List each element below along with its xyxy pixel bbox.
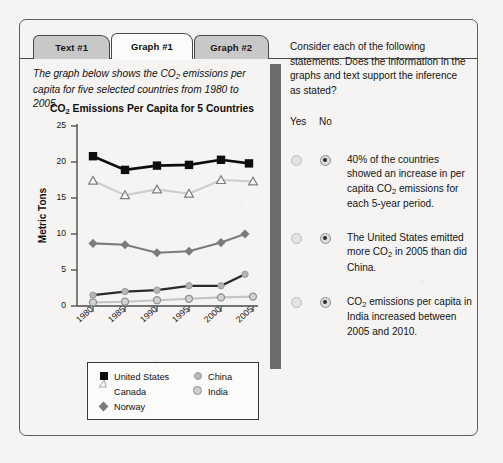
- statement-1-text: 40% of the countries showed an increase …: [347, 153, 472, 212]
- statement-3-subscript: 2: [362, 300, 366, 309]
- chart-title-part2: Emissions Per Capita for 5 Countries: [70, 103, 254, 114]
- legend-label-united-states: United States: [114, 372, 169, 382]
- question-panel: Consider each of the following statement…: [290, 40, 472, 370]
- y-tick-5: 5: [48, 264, 66, 274]
- legend-column-right: China India: [191, 369, 259, 399]
- legend-label-canada: Canada: [114, 387, 146, 397]
- legend-item-canada: Canada: [97, 384, 189, 399]
- radio-no-statement-3[interactable]: [320, 297, 331, 308]
- y-tick-15: 15: [48, 192, 66, 202]
- no-column-label: No: [319, 116, 332, 127]
- radio-no-statement-1[interactable]: [320, 155, 331, 166]
- statement-3-part1: CO: [347, 296, 362, 307]
- line-chart: Metric Tons: [30, 118, 268, 353]
- legend-label-china: China: [208, 372, 232, 382]
- y-tick-20: 20: [48, 156, 66, 166]
- radio-yes-statement-3[interactable]: [291, 297, 302, 308]
- y-tick-0: 0: [48, 300, 66, 310]
- intro-text-part1: The graph below shows the CO: [33, 68, 176, 79]
- question-prompt: Consider each of the following statement…: [290, 40, 466, 98]
- y-tick-10: 10: [48, 228, 66, 238]
- radio-no-statement-2[interactable]: [320, 233, 331, 244]
- statement-2-text: The United States emitted more CO2 in 20…: [347, 231, 472, 275]
- tab-graph-2[interactable]: Graph #2: [194, 35, 269, 59]
- chart-title-subscript: 2: [65, 107, 69, 116]
- statement-3-text: CO2 emissions per capita in India increa…: [347, 295, 472, 339]
- tab-graph-2-label: Graph #2: [210, 42, 252, 53]
- chart-title-part1: CO: [50, 103, 65, 114]
- legend-label-india: India: [208, 387, 228, 397]
- legend-item-china: China: [191, 369, 259, 384]
- circle-ring-icon: [191, 386, 204, 397]
- open-triangle-icon: [97, 387, 110, 397]
- tab-graph-1[interactable]: Graph #1: [111, 33, 192, 59]
- legend-item-united-states: United States: [97, 369, 189, 384]
- legend-item-norway: Norway: [97, 399, 189, 414]
- tab-bar: Text #1 Graph #1 Graph #2: [33, 33, 269, 59]
- panel-scrollbar[interactable]: [270, 64, 281, 369]
- chart-title: CO2 Emissions Per Capita for 5 Countries: [38, 103, 266, 114]
- statement-2-subscript: 2: [388, 250, 392, 259]
- radio-yes-statement-2[interactable]: [291, 233, 302, 244]
- intro-subscript: 2: [176, 72, 180, 81]
- legend-column-left: United States Canada Norway: [97, 369, 189, 414]
- tab-text-1[interactable]: Text #1: [33, 35, 110, 59]
- graph-panel: The graph below shows the CO2 emissions …: [30, 64, 268, 427]
- statement-1-subscript: 2: [392, 187, 396, 196]
- legend-item-india: India: [191, 384, 259, 399]
- diamond-icon: [97, 402, 110, 412]
- y-tick-25: 25: [48, 120, 66, 130]
- yes-column-label: Yes: [290, 116, 306, 127]
- legend-label-norway: Norway: [114, 402, 145, 412]
- chart-legend: United States Canada Norway China: [87, 362, 259, 420]
- page-root: Text #1 Graph #1 Graph #2 The graph belo…: [0, 0, 503, 463]
- radio-yes-statement-1[interactable]: [291, 155, 302, 166]
- tab-text-1-label: Text #1: [55, 42, 88, 53]
- circle-light-icon: [191, 372, 204, 382]
- tab-graph-1-label: Graph #1: [131, 41, 173, 52]
